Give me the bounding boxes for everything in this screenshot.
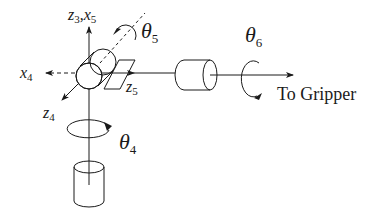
x5-dashed-axis — [100, 13, 145, 63]
label-theta5: θ5 — [141, 18, 158, 46]
wrist-cylinder — [76, 49, 116, 89]
label-x4: x4 — [19, 64, 33, 83]
label-to-gripper: To Gripper — [277, 84, 356, 104]
label-theta6: θ6 — [245, 22, 263, 50]
label-theta4: θ4 — [119, 129, 137, 157]
theta4-rotation-arrow — [67, 120, 112, 138]
label-z3: z3,x5 — [67, 6, 97, 25]
label-z5: z5 — [125, 78, 138, 97]
label-z4: z4 — [42, 104, 55, 123]
theta5-rotation-arrow — [113, 25, 136, 40]
wrist-diagram: z3,x5 θ5 x4 z5 z4 θ4 θ6 To Gripper — [0, 0, 388, 217]
theta6-rotation-arrow — [241, 61, 262, 100]
